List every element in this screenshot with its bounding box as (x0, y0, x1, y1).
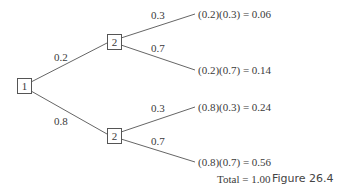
prob-root-lower: 0.8 (54, 115, 68, 127)
leaf-result-2: (0.2)(0.7) = 0.14 (198, 64, 271, 76)
leaf-result-1: (0.2)(0.3) = 0.06 (198, 8, 271, 20)
edge-root-upper (31, 43, 107, 82)
prob-root-upper: 0.2 (54, 51, 68, 63)
root-node-label: 1 (22, 80, 28, 92)
upper-decision-node: 2 (107, 34, 122, 50)
upper-node-label: 2 (112, 36, 118, 48)
lower-node-label: 2 (112, 130, 118, 142)
lower-decision-node: 2 (107, 128, 122, 144)
prob-lower-leaf1: 0.3 (151, 102, 165, 114)
prob-lower-leaf2: 0.7 (151, 135, 165, 147)
total-probability: Total = 1.00 (217, 173, 270, 185)
tree-edges (0, 0, 339, 192)
prob-upper-leaf2: 0.7 (151, 42, 165, 54)
edge-root-lower (31, 91, 107, 134)
leaf-result-3: (0.8)(0.3) = 0.24 (198, 101, 271, 113)
figure-caption: Figure 26.4 (272, 173, 334, 185)
root-node: 1 (17, 78, 32, 94)
leaf-result-4: (0.8)(0.7) = 0.56 (198, 156, 271, 168)
prob-upper-leaf1: 0.3 (151, 9, 165, 21)
